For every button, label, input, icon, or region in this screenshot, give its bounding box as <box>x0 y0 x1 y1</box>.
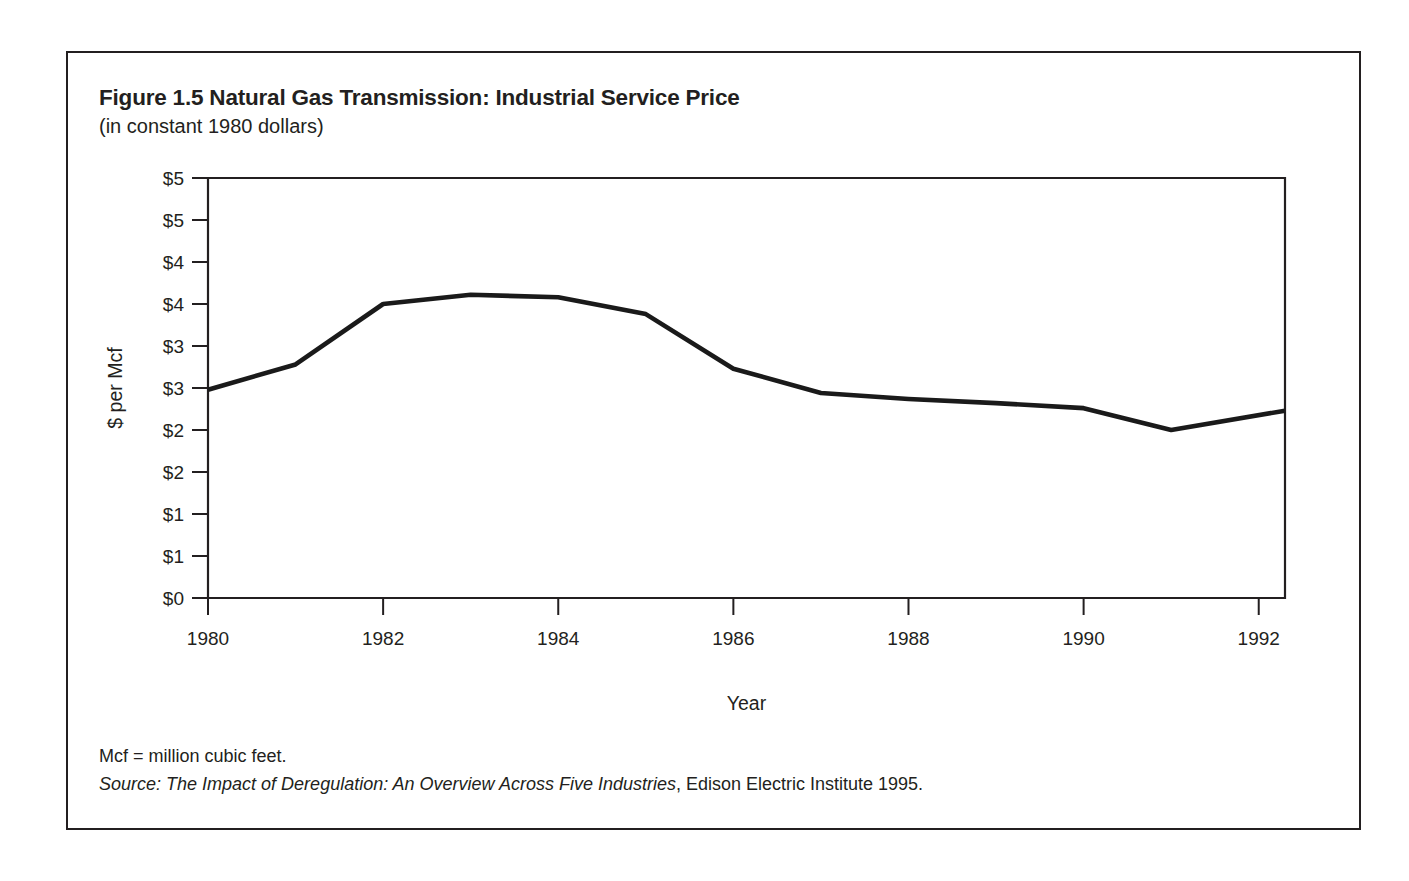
y-tick-label: $4 <box>163 294 185 315</box>
y-tick-label: $2 <box>163 462 184 483</box>
y-tick-label: $4 <box>163 252 185 273</box>
y-axis-title: $ per Mcf <box>104 347 126 429</box>
y-tick-label: $5 <box>163 210 184 231</box>
x-axis-title: Year <box>727 692 767 714</box>
line-chart: $0$1$1$2$2$3$3$4$4$5$5 19801982198419861… <box>68 53 1363 832</box>
footnote-units: Mcf = million cubic feet. <box>99 743 1329 771</box>
x-tick-label: 1980 <box>187 628 229 649</box>
source-label: Source: <box>99 774 161 794</box>
figure-panel: Figure 1.5 Natural Gas Transmission: Ind… <box>66 51 1361 830</box>
y-tick-label: $1 <box>163 546 184 567</box>
y-tick-label: $3 <box>163 336 184 357</box>
price-series-line <box>208 295 1285 430</box>
x-tick-label: 1982 <box>362 628 404 649</box>
y-tick-label: $3 <box>163 378 184 399</box>
x-tick-label: 1986 <box>712 628 754 649</box>
x-tick-label: 1984 <box>537 628 580 649</box>
x-tick-label: 1992 <box>1238 628 1280 649</box>
plot-frame <box>208 178 1285 598</box>
chart-plot-area: $0$1$1$2$2$3$3$4$4$5$5 19801982198419861… <box>68 53 1363 832</box>
x-tick-label: 1988 <box>887 628 929 649</box>
y-tick-label: $1 <box>163 504 184 525</box>
y-axis-ticks: $0$1$1$2$2$3$3$4$4$5$5 <box>163 168 208 609</box>
footnotes: Mcf = million cubic feet. Source: The Im… <box>99 743 1329 799</box>
y-tick-label: $5 <box>163 168 184 189</box>
y-tick-label: $0 <box>163 588 184 609</box>
source-title: The Impact of Deregulation: An Overview … <box>166 774 676 794</box>
x-tick-label: 1990 <box>1062 628 1104 649</box>
y-tick-label: $2 <box>163 420 184 441</box>
x-axis-ticks: 1980198219841986198819901992 <box>187 598 1280 649</box>
footnote-source: Source: The Impact of Deregulation: An O… <box>99 771 1329 799</box>
source-rest: , Edison Electric Institute 1995. <box>676 774 923 794</box>
